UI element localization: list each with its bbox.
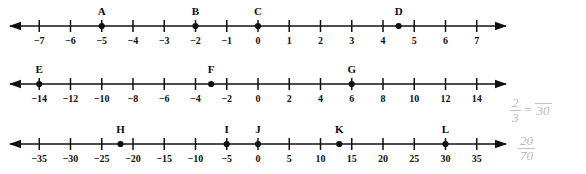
tick-label: 0 bbox=[256, 94, 261, 104]
point-label-b: B bbox=[192, 6, 199, 17]
fraction-denominator: 70 bbox=[518, 148, 535, 163]
tick-label: 7 bbox=[474, 36, 479, 46]
plotted-point-e bbox=[36, 81, 42, 87]
tick-label: 2 bbox=[318, 36, 323, 46]
tick-label: 4 bbox=[318, 94, 323, 104]
plotted-point-k bbox=[336, 141, 342, 147]
fraction-twenty-seventieths: 20 70 bbox=[518, 134, 535, 162]
point-label-h: H bbox=[116, 124, 125, 135]
tick-label: −10 bbox=[188, 154, 204, 164]
point-label-j: J bbox=[255, 124, 261, 135]
tick-label: −20 bbox=[125, 154, 141, 164]
tick-label: −4 bbox=[190, 94, 201, 104]
plotted-point-b bbox=[192, 23, 198, 29]
plotted-point-c bbox=[255, 23, 261, 29]
point-label-e: E bbox=[36, 64, 43, 75]
fraction-denominator: 3 bbox=[510, 110, 521, 125]
tick-label: −15 bbox=[156, 154, 172, 164]
tick-label: −2 bbox=[221, 94, 232, 104]
tick-label: −3 bbox=[159, 36, 170, 46]
tick-label: −2 bbox=[190, 36, 201, 46]
point-label-f: F bbox=[208, 64, 215, 75]
number-line-1: −7−6−5−4−3−2−101234567ABCD bbox=[0, 4, 520, 60]
tick-label: −4 bbox=[128, 36, 139, 46]
point-label-k: K bbox=[335, 124, 344, 135]
fraction-numerator: 20 bbox=[518, 134, 535, 148]
plotted-point-a bbox=[99, 23, 105, 29]
tick-label: 10 bbox=[316, 154, 326, 164]
tick-label: 5 bbox=[287, 154, 292, 164]
point-label-c: C bbox=[254, 6, 262, 17]
handwritten-note-1: 2 3 = 30 bbox=[510, 96, 552, 124]
tick-label: −1 bbox=[221, 36, 232, 46]
plotted-point-d bbox=[396, 23, 402, 29]
fraction-two-thirds: 2 3 bbox=[510, 96, 521, 124]
tick-label: −8 bbox=[128, 94, 139, 104]
tick-label: −30 bbox=[63, 154, 79, 164]
tick-label: 0 bbox=[256, 36, 261, 46]
tick-label: −10 bbox=[94, 94, 110, 104]
point-label-i: I bbox=[225, 124, 229, 135]
tick-label: 25 bbox=[409, 154, 419, 164]
handwritten-note-2: 20 70 bbox=[518, 134, 535, 162]
point-label-a: A bbox=[98, 6, 106, 17]
tick-label: −6 bbox=[159, 94, 170, 104]
fraction-denominator-thirty: 30 bbox=[535, 103, 552, 118]
number-line-3: −35−30−25−20−15−10−505101520253035HIJKL bbox=[0, 122, 520, 174]
tick-label: 10 bbox=[409, 94, 419, 104]
tick-label: 8 bbox=[381, 94, 386, 104]
tick-label: −5 bbox=[96, 36, 107, 46]
tick-label: 12 bbox=[441, 94, 451, 104]
plotted-point-f bbox=[208, 81, 214, 87]
tick-label: 3 bbox=[349, 36, 354, 46]
tick-label: −6 bbox=[65, 36, 76, 46]
plotted-point-g bbox=[349, 81, 355, 87]
tick-label: 20 bbox=[378, 154, 388, 164]
fraction-numerator: 2 bbox=[510, 96, 521, 110]
tick-label: 35 bbox=[472, 154, 482, 164]
tick-label: 6 bbox=[443, 36, 448, 46]
equals-sign: = bbox=[524, 103, 532, 118]
number-line-2: −14−12−10−8−6−4−202468101214EFG bbox=[0, 62, 520, 118]
tick-label: −14 bbox=[31, 94, 47, 104]
tick-label: 14 bbox=[472, 94, 482, 104]
tick-label: −12 bbox=[63, 94, 79, 104]
handwritten-notes: 2 3 = 30 20 70 bbox=[504, 96, 584, 174]
tick-label: −25 bbox=[94, 154, 110, 164]
tick-label: 15 bbox=[347, 154, 357, 164]
worksheet-canvas: −7−6−5−4−3−2−101234567ABCD−14−12−10−8−6−… bbox=[0, 0, 586, 174]
tick-label: 1 bbox=[287, 36, 292, 46]
tick-label: 6 bbox=[349, 94, 354, 104]
tick-label: 0 bbox=[256, 154, 261, 164]
plotted-point-l bbox=[442, 141, 448, 147]
tick-label: −35 bbox=[31, 154, 47, 164]
tick-label: 5 bbox=[412, 36, 417, 46]
point-label-d: D bbox=[395, 6, 403, 17]
plotted-point-j bbox=[255, 141, 261, 147]
point-label-l: L bbox=[442, 124, 449, 135]
fraction-blank-over-thirty: 30 bbox=[535, 103, 552, 118]
plotted-point-h bbox=[117, 141, 123, 147]
point-label-g: G bbox=[347, 64, 356, 75]
tick-label: 30 bbox=[441, 154, 451, 164]
tick-label: −7 bbox=[34, 36, 45, 46]
plotted-point-i bbox=[224, 141, 230, 147]
tick-label: −5 bbox=[221, 154, 232, 164]
tick-label: 2 bbox=[287, 94, 292, 104]
tick-label: 4 bbox=[381, 36, 386, 46]
